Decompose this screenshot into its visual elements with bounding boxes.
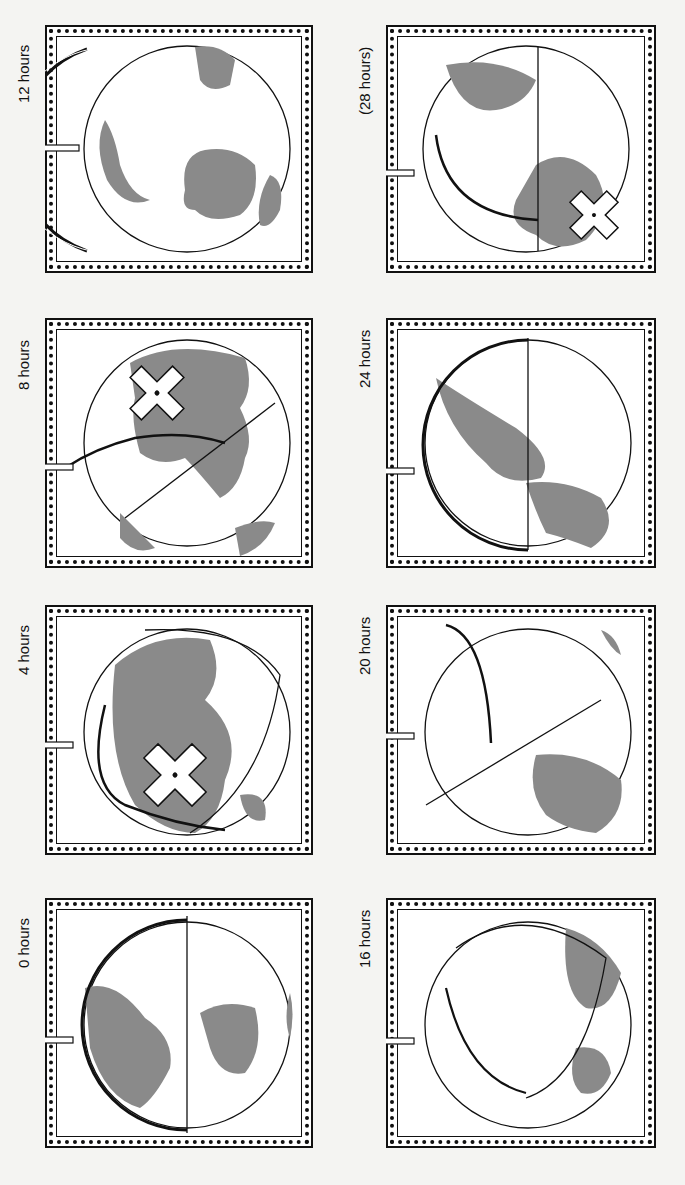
- globe-icon: [45, 605, 313, 855]
- globe-icon: [45, 898, 313, 1148]
- panel-label: (28 hours): [356, 47, 373, 115]
- globe-icon: [45, 318, 313, 568]
- panel-label: 0 hours: [15, 918, 32, 968]
- panel-12-hours: 12 hours: [45, 25, 313, 273]
- globe-icon: [386, 318, 656, 568]
- panel-16-hours: 16 hours: [386, 898, 656, 1148]
- panel-label: 4 hours: [15, 625, 32, 675]
- panel-label: 8 hours: [15, 340, 32, 390]
- panel-label: 24 hours: [356, 330, 373, 388]
- globe-icon: [45, 25, 313, 273]
- panel-20-hours: 20 hours: [386, 605, 656, 855]
- panel-label: 16 hours: [356, 910, 373, 968]
- panel-8-hours: 8 hours: [45, 318, 313, 568]
- panel-0-hours: 0 hours: [45, 898, 313, 1148]
- panel-4-hours: 4 hours: [45, 605, 313, 855]
- panel-28-hours: (28 hours): [386, 25, 656, 273]
- panel-24-hours: 24 hours: [386, 318, 656, 568]
- globe-icon: [386, 605, 656, 855]
- panel-label: 20 hours: [356, 617, 373, 675]
- globe-icon: [386, 25, 656, 273]
- globe-icon: [386, 898, 656, 1148]
- panel-label: 12 hours: [15, 45, 32, 103]
